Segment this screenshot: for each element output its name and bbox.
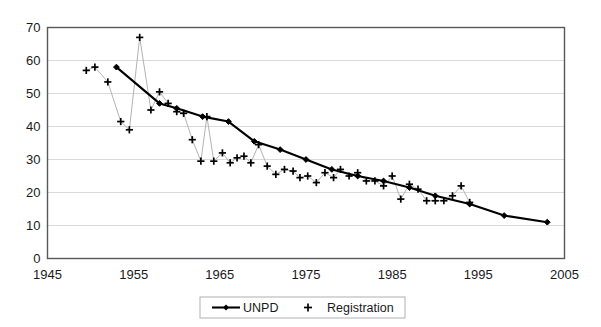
registration-line (86, 37, 469, 202)
registration-marker (197, 158, 204, 165)
y-tick-label: 60 (26, 53, 40, 68)
y-tick-label: 50 (26, 86, 40, 101)
chart-legend: UNPDRegistration (200, 297, 405, 318)
series-registration (83, 34, 474, 206)
unpd-marker (303, 157, 309, 163)
unpd-marker (277, 147, 283, 153)
x-axis-tick-labels: 1945195519651975198519952005 (33, 267, 579, 282)
y-axis-tick-labels: 010203040506070 (26, 20, 40, 266)
unpd-marker (200, 114, 206, 120)
y-tick-label: 30 (26, 152, 40, 167)
y-tick-label: 40 (26, 119, 40, 134)
unpd-line (116, 67, 547, 222)
x-tick-label: 1955 (119, 267, 148, 282)
series-unpd (114, 64, 551, 225)
y-tick-label: 70 (26, 20, 40, 35)
x-tick-label: 1975 (292, 267, 321, 282)
x-tick-label: 1965 (205, 267, 234, 282)
x-tick-label: 1995 (464, 267, 493, 282)
registration-marker (397, 196, 404, 203)
registration-marker (136, 34, 143, 41)
unpd-marker (544, 219, 550, 225)
registration-marker (423, 197, 430, 204)
chart-container: 010203040506070 194519551965197519851995… (0, 0, 601, 327)
plot-frame (48, 28, 565, 259)
y-tick-label: 20 (26, 185, 40, 200)
legend-label-unpd: UNPD (243, 301, 278, 315)
x-tick-label: 1985 (378, 267, 407, 282)
registration-marker (281, 166, 288, 173)
x-tick-label: 1945 (33, 267, 62, 282)
registration-marker (233, 154, 240, 161)
registration-marker (83, 67, 90, 74)
chart-svg: 010203040506070 194519551965197519851995… (0, 0, 601, 327)
registration-marker (156, 88, 163, 95)
y-tick-label: 10 (26, 218, 40, 233)
registration-marker (189, 136, 196, 143)
legend-label-registration: Registration (327, 301, 394, 315)
grid-lines (48, 28, 565, 226)
unpd-marker (501, 213, 507, 219)
plot-area-border (48, 28, 565, 259)
unpd-marker (432, 193, 438, 199)
x-tick-label: 2005 (550, 267, 579, 282)
y-tick-label: 0 (33, 251, 40, 266)
registration-marker (147, 106, 154, 113)
unpd-marker (329, 167, 335, 173)
